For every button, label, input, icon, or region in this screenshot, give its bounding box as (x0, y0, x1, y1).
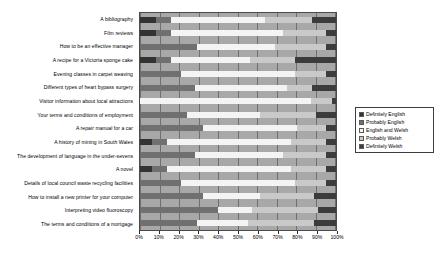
legend-swatch-icon (359, 128, 364, 133)
category-label: A recipe for a Victoria sponge cake (0, 53, 136, 67)
bar-segment (171, 17, 265, 23)
stacked-bar (140, 30, 336, 36)
bar-segment (311, 98, 333, 104)
bar-segment (167, 139, 290, 145)
bar-segment (140, 193, 203, 199)
category-label: A bibliography (0, 12, 136, 26)
bar-segment (248, 220, 315, 226)
bar-segment (181, 180, 295, 186)
axis-tick-label: 90% (312, 234, 322, 241)
legend-item[interactable]: Probably English (358, 118, 431, 126)
category-label: Evening classes in carpet weaving (0, 67, 136, 81)
axis-tick-label: 50% (233, 234, 243, 241)
bar-segment (326, 166, 336, 172)
axis-tick-label: 0% (135, 234, 142, 241)
bar-row (140, 176, 336, 190)
axis-tick-label: 10% (154, 234, 164, 241)
legend-swatch-icon (359, 136, 364, 141)
bar-segment (156, 57, 172, 63)
bar-row (140, 189, 336, 203)
category-label: The development of language in the under… (0, 149, 136, 163)
bar-segment (140, 139, 152, 145)
stacked-bar-chart: A bibliographyFilm reviewsHow to be an e… (0, 0, 437, 260)
category-label: Interpreting video fluoroscopy (0, 204, 136, 218)
category-label: Details of local council waste recycling… (0, 176, 136, 190)
legend-item[interactable]: Definitely Welsh (358, 142, 431, 150)
axis-tick-label: 40% (213, 234, 223, 241)
bar-segment (283, 152, 326, 158)
stacked-bar (140, 125, 336, 131)
stacked-bar (140, 152, 336, 158)
bar-segment (167, 166, 290, 172)
category-label: A history of mining in South Wales (0, 135, 136, 149)
bar-segment (140, 85, 195, 91)
bar-segment (181, 71, 295, 77)
bar-segment (156, 30, 172, 36)
bar-segment (326, 125, 336, 131)
bar-segment (197, 220, 248, 226)
category-axis: A bibliographyFilm reviewsHow to be an e… (0, 12, 136, 231)
axis-tick-label: 30% (193, 234, 203, 241)
bar-segment (312, 85, 336, 91)
bar-segment (326, 71, 336, 77)
category-label: How to be an effective manager (0, 39, 136, 53)
bar-segment (332, 98, 336, 104)
bar-segment (291, 139, 326, 145)
bar-row (140, 216, 336, 230)
bar-segment (218, 207, 251, 213)
bar-segment (140, 180, 181, 186)
bar-segment (316, 112, 336, 118)
bar-segment (291, 166, 326, 172)
value-axis: 0%10%20%30%40%50%60%70%80%90%100% (139, 231, 337, 245)
legend-item[interactable]: Probably Welsh (358, 134, 431, 142)
bar-segment (171, 57, 249, 63)
bar-segment (326, 180, 336, 186)
bar-segment (140, 207, 218, 213)
bar-row (140, 162, 336, 176)
bar-segment (171, 30, 283, 36)
bar-segment (140, 112, 187, 118)
bar-row (140, 203, 336, 217)
bar-segment (295, 180, 326, 186)
bar-row (140, 135, 336, 149)
stacked-bar (140, 193, 336, 199)
bar-segment (140, 44, 197, 50)
stacked-bar (140, 44, 336, 50)
axis-tick-label: 60% (253, 234, 263, 241)
bar-segment (152, 139, 168, 145)
stacked-bar (140, 85, 336, 91)
bar-segment (140, 30, 156, 36)
bar-segment (295, 57, 336, 63)
chart-legend: Definitely EnglishProbably EnglishEnglis… (355, 107, 434, 153)
bar-segment (297, 125, 326, 131)
bar-segment (140, 166, 152, 172)
bar-segment (314, 220, 336, 226)
bar-segment (140, 125, 203, 131)
legend-label: Probably English (366, 119, 404, 125)
category-label: The terms and conditions of a mortgage (0, 217, 136, 231)
bar-segment (260, 193, 315, 199)
bar-segment (140, 71, 181, 77)
bar-segment (326, 139, 336, 145)
stacked-bar (140, 207, 336, 213)
bar-row (140, 94, 336, 108)
bar-segment (312, 17, 336, 23)
category-label: A novel (0, 163, 136, 177)
bar-row (140, 13, 336, 27)
axis-tick-label: 70% (272, 234, 282, 241)
legend-swatch-icon (359, 112, 364, 117)
bar-row (140, 40, 336, 54)
bar-row (140, 54, 336, 68)
stacked-bar (140, 112, 336, 118)
bar-row (140, 81, 336, 95)
bar-segment (326, 30, 336, 36)
legend-item[interactable]: Definitely English (358, 110, 431, 118)
bar-segment (295, 71, 326, 77)
bar-segment (140, 98, 311, 104)
legend-item[interactable]: English and Welsh (358, 126, 431, 134)
legend-swatch-icon (359, 144, 364, 149)
bar-segment (203, 193, 260, 199)
axis-tick-label: 100% (330, 234, 343, 241)
axis-tick-label: 80% (292, 234, 302, 241)
bar-segment (156, 17, 172, 23)
